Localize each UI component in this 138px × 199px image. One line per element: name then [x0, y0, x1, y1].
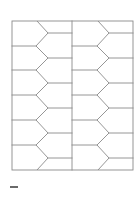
tessellation-diagram	[0, 0, 138, 199]
outer-frame	[12, 21, 133, 170]
zigzag-line-column-2	[97, 21, 109, 170]
zigzag-line-column-1	[36, 21, 48, 170]
caption-mark	[10, 186, 18, 188]
